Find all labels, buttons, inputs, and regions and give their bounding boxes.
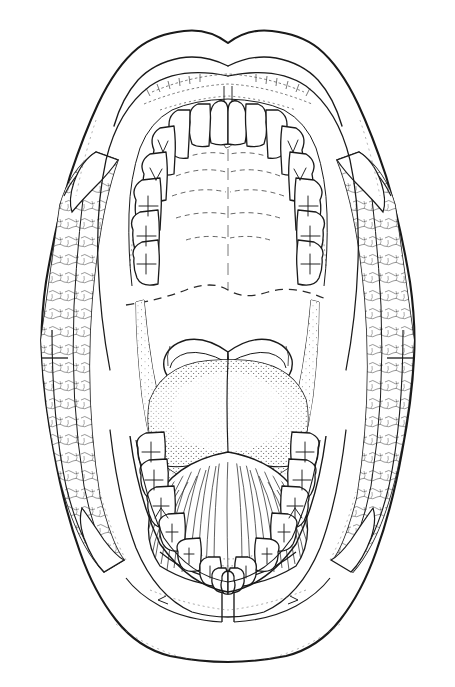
oral-cavity-svg [0, 0, 455, 687]
tooth-UR1 [228, 101, 247, 145]
tooth-UR2 [246, 104, 267, 147]
tooth-UL2 [189, 104, 210, 147]
tooth-UL1 [209, 101, 228, 145]
oral-cavity-illustration [0, 0, 455, 687]
